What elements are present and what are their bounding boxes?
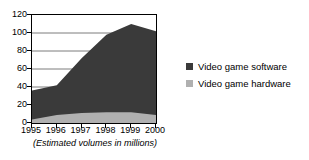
x-tick-label-1996: 1996 <box>46 126 66 135</box>
chart-legend: Video game software Video game hardware <box>186 59 308 93</box>
legend-label-hardware: Video game hardware <box>198 79 291 89</box>
y-axis: 120 100 80 60 40 20 0 <box>0 14 27 122</box>
legend-label-software: Video game software <box>198 62 287 72</box>
x-tick-label-2000: 2000 <box>145 126 165 135</box>
x-tick-label-1998: 1998 <box>95 126 115 135</box>
x-tick-label-1995: 1995 <box>21 126 41 135</box>
legend-swatch-software-icon <box>186 63 193 70</box>
x-tick-label-1999: 1999 <box>120 126 140 135</box>
plot-area <box>31 14 157 124</box>
legend-item-video-game-hardware: Video game hardware <box>186 76 308 91</box>
y-tick-label-100: 100 <box>12 28 27 37</box>
x-axis: 1995 1996 1997 1998 1999 2000 <box>31 124 155 138</box>
area-video-game-software <box>32 24 156 123</box>
y-tick-label-20: 20 <box>17 100 27 109</box>
chart-caption: (Estimated volumes in millions) <box>20 138 170 149</box>
y-tick-label-120: 120 <box>12 10 27 19</box>
y-tick-label-40: 40 <box>17 82 27 91</box>
y-tick-label-80: 80 <box>17 46 27 55</box>
y-tick-label-60: 60 <box>17 64 27 73</box>
x-tick-label-1997: 1997 <box>71 126 91 135</box>
area-series-svg <box>32 15 156 123</box>
legend-item-video-game-software: Video game software <box>186 59 308 74</box>
legend-swatch-hardware-icon <box>186 80 193 87</box>
stacked-area-chart: 120 100 80 60 40 20 0 <box>0 0 309 160</box>
